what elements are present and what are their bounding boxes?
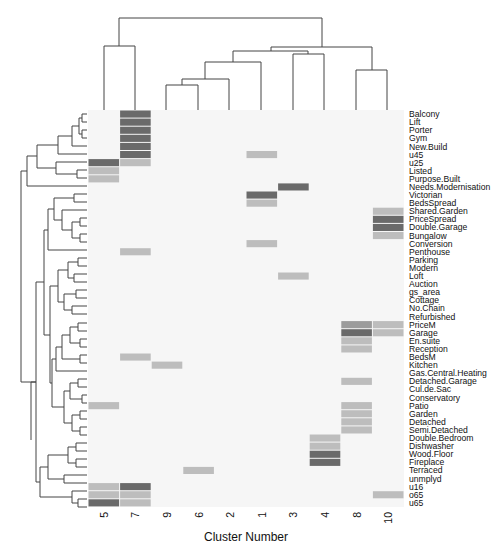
column-label: 2 — [224, 512, 236, 518]
heatmap-cell — [89, 402, 120, 409]
heatmap-cell — [120, 135, 151, 142]
heatmap-cell — [341, 402, 372, 409]
heatmap-cell — [120, 151, 151, 158]
heatmap-cell — [310, 459, 341, 466]
clustered-heatmap: BalconyLiftPorterGymNew.Buildu45u25Liste… — [0, 0, 497, 558]
heatmap-cell — [310, 443, 341, 450]
column-label: 6 — [193, 512, 205, 518]
heatmap-cell — [373, 224, 404, 231]
heatmap-cell — [89, 499, 120, 506]
heatmap-cell — [278, 183, 309, 190]
heatmap-cell — [341, 410, 372, 417]
heatmap-cell — [247, 151, 278, 158]
heatmap-cell — [89, 175, 120, 182]
heatmap-cell — [373, 232, 404, 239]
heatmap-cell — [247, 192, 278, 199]
heatmap-cell — [278, 273, 309, 280]
heatmap-cell — [373, 329, 404, 336]
heatmap-cell — [89, 167, 120, 174]
column-label: 5 — [98, 512, 110, 518]
column-label: 3 — [287, 512, 299, 518]
heatmap-cell — [341, 345, 372, 352]
x-axis-label: Cluster Number — [204, 530, 288, 544]
heatmap-cell — [341, 418, 372, 425]
heatmap-cell — [120, 119, 151, 126]
heatmap-cell — [120, 127, 151, 134]
heatmap-cell — [120, 491, 151, 498]
heatmap-cell — [247, 200, 278, 207]
row-label: u65 — [409, 498, 424, 508]
heatmap-cell — [341, 337, 372, 344]
heatmap-cell — [120, 159, 151, 166]
heatmap-cell — [341, 329, 372, 336]
heatmap-cell — [341, 321, 372, 328]
heatmap-cell — [120, 248, 151, 255]
heatmap-cell — [152, 362, 183, 369]
column-label: 10 — [382, 512, 394, 524]
heatmap-cell — [373, 321, 404, 328]
column-label: 4 — [319, 512, 331, 518]
heatmap-cell — [120, 483, 151, 490]
heatmap-cell — [310, 435, 341, 442]
heatmap-background — [88, 110, 404, 507]
heatmap-cell — [247, 240, 278, 247]
heatmap-cell — [373, 208, 404, 215]
heatmap-cell — [89, 491, 120, 498]
column-label: 9 — [161, 512, 173, 518]
heatmap-cell — [89, 159, 120, 166]
heatmap-cell — [373, 491, 404, 498]
heatmap-cell — [310, 451, 341, 458]
column-label: 8 — [351, 512, 363, 518]
heatmap-cell — [120, 143, 151, 150]
column-label: 7 — [129, 512, 141, 518]
heatmap-cell — [120, 111, 151, 118]
heatmap-cell — [183, 467, 214, 474]
heatmap-cell — [120, 354, 151, 361]
heatmap-cell — [341, 426, 372, 433]
heatmap-cell — [120, 499, 151, 506]
heatmap-cell — [341, 378, 372, 385]
heatmap-cell — [373, 216, 404, 223]
heatmap-cell — [89, 483, 120, 490]
column-label: 1 — [256, 512, 268, 518]
